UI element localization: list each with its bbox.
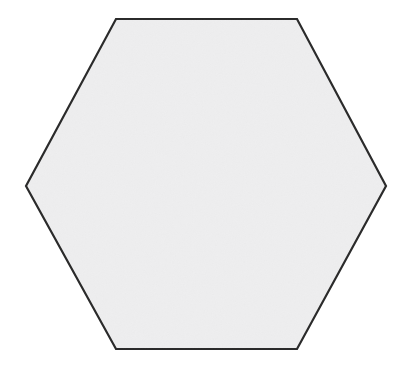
hexagon-figure bbox=[0, 0, 416, 390]
figure-canvas bbox=[0, 0, 416, 390]
